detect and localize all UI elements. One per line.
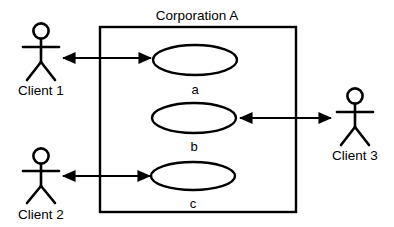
actor-client-3[interactable]: Client 3: [332, 88, 378, 163]
actor-client-3-right-leg: [355, 127, 369, 145]
actor-client-2-label: Client 2: [18, 207, 64, 222]
actor-client-3-label: Client 3: [332, 148, 378, 163]
actor-client-1-right-leg: [41, 62, 55, 80]
use-case-a-label: a: [191, 82, 199, 97]
use-case-c-ellipse: [151, 162, 235, 190]
use-case-b-ellipse: [152, 103, 236, 133]
actor-client-3-head-icon: [347, 88, 362, 103]
actor-client-1-left-leg: [27, 62, 41, 80]
system-boundary-title: Corporation A: [156, 8, 239, 23]
actor-client-2[interactable]: Client 2: [18, 148, 64, 222]
actor-client-1-head-icon: [33, 23, 48, 38]
actor-client-2-left-leg: [27, 186, 41, 203]
actor-client-3-left-leg: [341, 127, 355, 145]
actor-client-2-right-leg: [41, 186, 55, 203]
use-case-diagram: Corporation A a b c: [0, 0, 394, 227]
use-case-a-ellipse: [153, 45, 237, 75]
diagram-canvas: Corporation A a b c: [0, 0, 394, 227]
use-case-b-label: b: [190, 139, 197, 154]
actor-client-1[interactable]: Client 1: [18, 23, 64, 98]
use-case-c-label: c: [190, 196, 197, 211]
actor-client-1-label: Client 1: [18, 83, 64, 98]
actor-client-2-head-icon: [33, 148, 48, 163]
